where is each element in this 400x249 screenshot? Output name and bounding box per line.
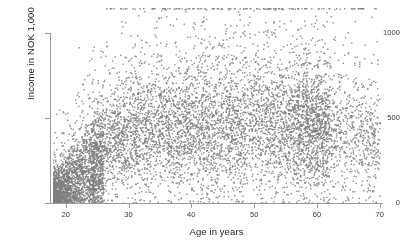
x-tick-label-20: 20	[51, 210, 81, 219]
x-tick-60	[317, 204, 318, 208]
scatter-plot-figure: 05001000 203040506070 Income in NOK 1,00…	[0, 0, 400, 249]
x-tick-label-70: 70	[365, 210, 395, 219]
y-tick-1000	[45, 33, 50, 34]
y-tick-0	[45, 203, 50, 204]
x-tick-30	[129, 204, 130, 208]
y-tick-label-1000: 1000	[356, 29, 400, 37]
x-tick-40	[191, 204, 192, 208]
x-axis-title: Age in years	[50, 226, 383, 237]
scatter-points-layer	[50, 8, 390, 203]
x-tick-label-30: 30	[114, 210, 144, 219]
y-axis-spine	[50, 33, 51, 204]
y-tick-500	[45, 118, 50, 119]
x-axis-spine	[50, 203, 383, 204]
x-tick-70	[380, 204, 381, 208]
x-tick-label-50: 50	[239, 210, 269, 219]
x-tick-label-60: 60	[302, 210, 332, 219]
x-tick-20	[66, 204, 67, 208]
plot-area	[50, 8, 390, 203]
x-tick-label-40: 40	[176, 210, 206, 219]
y-axis-title: Income in NOK 1,000	[25, 0, 36, 134]
y-tick-label-500: 500	[356, 114, 400, 122]
y-tick-label-0: 0	[356, 199, 400, 207]
x-tick-50	[254, 204, 255, 208]
